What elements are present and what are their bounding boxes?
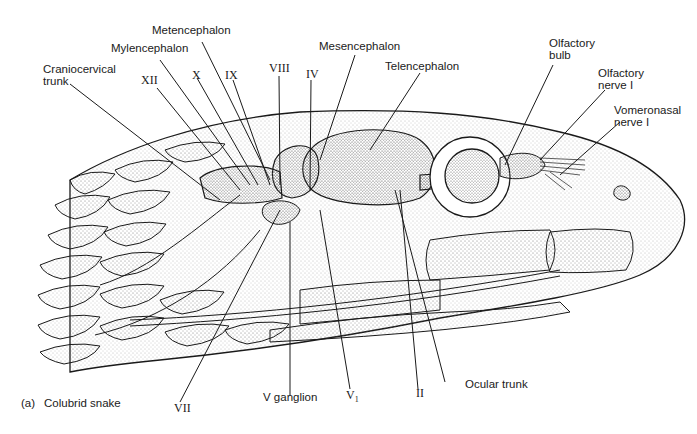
label-nerve-ix: IX <box>225 69 238 82</box>
label-nerve-ii: II <box>416 387 424 400</box>
label-nerve-v1: V1 <box>346 389 359 406</box>
figure-caption: Colubrid snake <box>44 397 121 410</box>
label-nerve-xii: XII <box>141 74 158 87</box>
label-mesencephalon: Mesencephalon <box>319 40 400 53</box>
label-telencephalon: Telencephalon <box>385 60 459 73</box>
label-vomeronasal-nerve-line2: nerve I <box>614 116 649 129</box>
label-nerve-vii: VII <box>174 402 191 415</box>
label-v-ganglion: V ganglion <box>263 391 317 404</box>
eyeball <box>445 149 499 203</box>
label-olfactory-bulb-line2: bulb <box>549 49 571 62</box>
eye <box>430 137 510 217</box>
label-nerve-v1-subscript: 1 <box>355 395 359 404</box>
label-nerve-x: X <box>192 69 201 82</box>
label-nerve-v1-main: V <box>346 388 355 402</box>
label-olfactory-nerve-line2: nerve I <box>598 79 633 92</box>
telencephalon-shape <box>303 130 435 205</box>
label-craniocervical-trunk-line2: trunk <box>43 75 69 88</box>
label-nerve-viii: VIII <box>269 62 290 75</box>
label-metencephalon: Metencephalon <box>152 24 231 37</box>
label-ocular-trunk: Ocular trunk <box>465 378 528 391</box>
label-nerve-iv: IV <box>306 68 319 81</box>
figure-panel-letter: (a) <box>21 397 35 410</box>
label-mylencephalon: Mylencephalon <box>111 42 188 55</box>
